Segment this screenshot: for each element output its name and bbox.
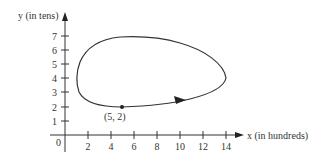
y-tick-label: 4 <box>52 73 57 84</box>
trajectory-curve <box>77 37 226 107</box>
x-tick-label: 14 <box>221 141 231 152</box>
x-tick-label: 12 <box>198 141 208 152</box>
x-axis-arrow-icon <box>235 132 244 138</box>
y-tick-label: 3 <box>52 87 57 98</box>
point-label: (5, 2) <box>104 111 126 123</box>
x-tick-label: 2 <box>86 141 91 152</box>
x-tick-label: 8 <box>155 141 160 152</box>
y-tick-label: 7 <box>52 31 57 42</box>
phase-plot: 7 6 5 4 3 2 1 2 4 6 8 10 12 14 0 y (in t… <box>0 0 321 159</box>
y-tick-label: 6 <box>52 45 57 56</box>
origin-label: 0 <box>56 137 61 148</box>
x-tick-label: 4 <box>109 141 114 152</box>
y-tick-label: 1 <box>52 116 57 127</box>
point-marker <box>120 105 124 109</box>
x-axis-label: x (in hundreds) <box>247 130 308 142</box>
y-tick-label: 2 <box>52 102 57 113</box>
x-tick-label: 10 <box>175 141 185 152</box>
y-axis-label: y (in tens) <box>18 10 59 22</box>
y-axis-arrow-icon <box>62 12 68 21</box>
direction-arrow-icon <box>174 96 186 104</box>
y-tick-label: 5 <box>52 59 57 70</box>
x-tick-label: 6 <box>132 141 137 152</box>
